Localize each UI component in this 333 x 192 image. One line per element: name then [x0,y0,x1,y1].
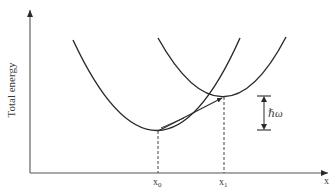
displaced-curve [158,37,286,97]
ground-state-curve [73,38,240,131]
x-axis-label: x [324,175,329,186]
y-axis-label: Total energy [5,62,17,117]
transition-arrow [158,98,222,131]
energy-diagram: ℏω Total energy x0 x1 x [0,0,333,192]
x1-label: x1 [219,176,228,189]
energy-gap-label: ℏω [268,107,283,119]
x0-label: x0 [153,176,162,189]
